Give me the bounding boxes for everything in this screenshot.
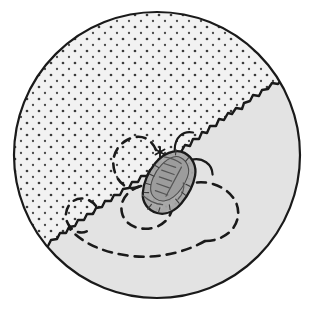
figure-illustration: Circular habitat field diagram with tick…: [0, 0, 309, 315]
figure-container: Circular habitat field diagram with tick…: [0, 0, 309, 315]
